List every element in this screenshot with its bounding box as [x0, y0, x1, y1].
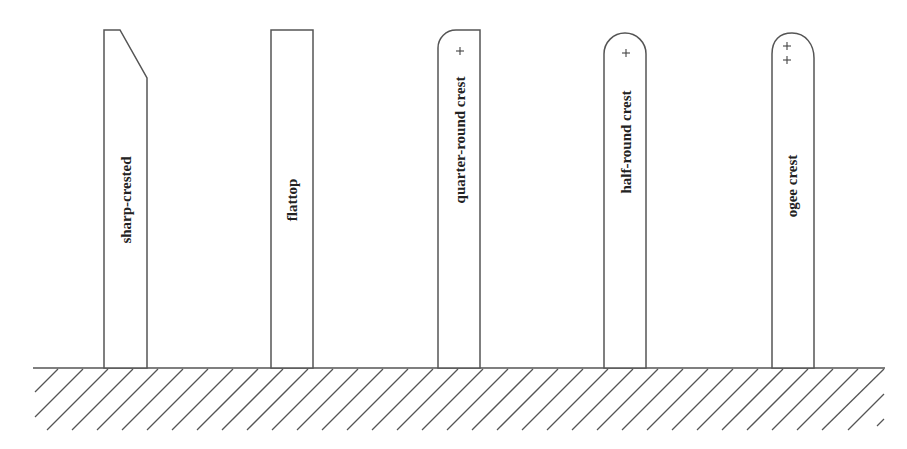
ogee-label: ogee crest [784, 155, 800, 218]
post-flattop: flattop [271, 30, 313, 368]
post-quarter-round: quarter-round crest [438, 30, 480, 368]
sharp-crested-label: sharp-crested [118, 156, 134, 244]
weir-crest-diagram: sharp-crested flattop quarter-round cres… [0, 0, 907, 449]
half-round-shape [604, 33, 646, 368]
flattop-label: flattop [284, 179, 300, 222]
post-sharp-crested: sharp-crested [104, 30, 147, 368]
post-half-round: half-round crest [604, 33, 646, 368]
half-round-label: half-round crest [618, 90, 634, 193]
post-ogee: ogee crest [772, 33, 814, 368]
ground-hatching [35, 369, 884, 430]
quarter-round-label: quarter-round crest [452, 77, 468, 204]
